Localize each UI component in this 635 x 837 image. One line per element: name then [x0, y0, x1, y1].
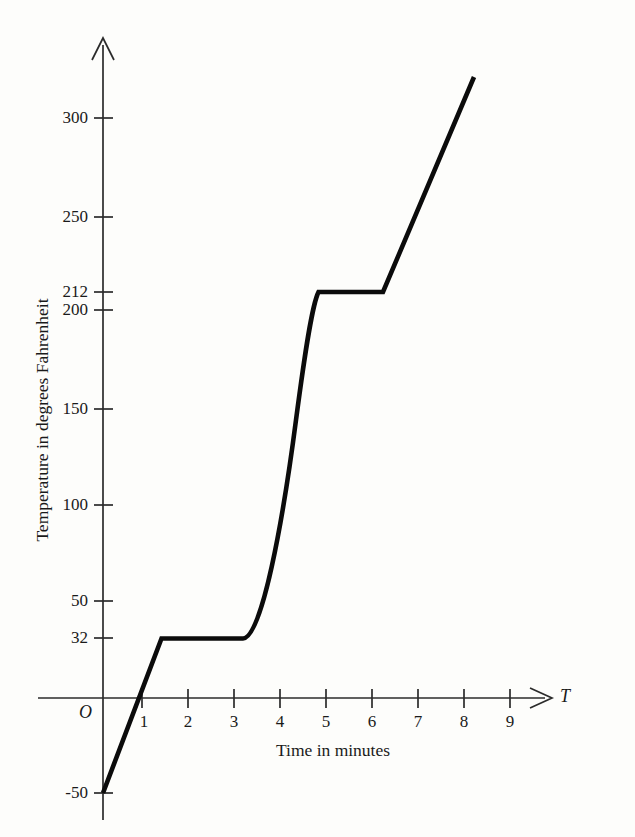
- x-tick-label-6: 6: [368, 712, 377, 732]
- temperature-vs-time-plot: [0, 0, 635, 837]
- y-tick-label-150: 150: [20, 399, 88, 419]
- x-tick-label-5: 5: [322, 712, 331, 732]
- y-tick-label-200: 200: [20, 300, 88, 320]
- y-tick-label-50: 50: [20, 591, 88, 611]
- y-tick-label-250: 250: [20, 207, 88, 227]
- temperature-curve: [103, 77, 474, 793]
- y-tick-label-100: 100: [20, 495, 88, 515]
- x-tick-label-8: 8: [460, 712, 469, 732]
- y-tick-label-212: 212: [20, 282, 88, 302]
- x-tick-label-7: 7: [414, 712, 423, 732]
- x-axis-title: Time in minutes: [276, 740, 390, 761]
- origin-label: O: [79, 702, 92, 723]
- y-axis: [92, 38, 114, 820]
- x-tick-label-3: 3: [230, 712, 239, 732]
- y-tick-label-minus-50: -50: [20, 783, 88, 803]
- y-tick-label-300: 300: [20, 108, 88, 128]
- x-tick-label-9: 9: [506, 712, 515, 732]
- x-tick-label-4: 4: [276, 712, 285, 732]
- chart-figure: Temperature in degrees Fahrenheit 300 25…: [0, 0, 635, 837]
- x-tick-label-2: 2: [184, 712, 193, 732]
- x-axis-symbol: T: [560, 686, 570, 707]
- x-tick-label-1: 1: [140, 712, 149, 732]
- y-tick-label-32: 32: [20, 628, 88, 648]
- x-axis: [38, 688, 552, 708]
- y-axis-title: Temperature in degrees Fahrenheit: [32, 200, 58, 640]
